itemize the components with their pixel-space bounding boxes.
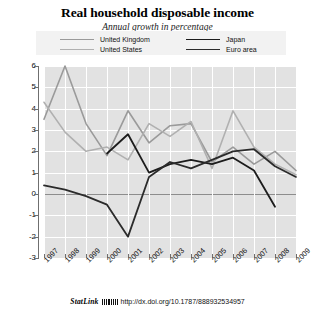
plot-area	[44, 66, 296, 258]
legend-swatch-euro-area	[186, 49, 220, 50]
legend-label-euro-area: Euro area	[226, 46, 257, 53]
page-title: Real household disposable income	[0, 5, 315, 21]
legend-label-united-states: United States	[100, 46, 142, 53]
legend-swatch-united-states	[60, 49, 94, 50]
y-axis-tick	[34, 109, 39, 110]
gridline-vertical	[296, 66, 297, 258]
legend-item-japan: Japan	[186, 34, 245, 44]
y-axis-tick	[34, 130, 39, 131]
series-lines	[44, 66, 296, 258]
y-axis-tick	[34, 258, 39, 259]
doi-link[interactable]: http://dx.doi.org/10.1787/888932534957	[121, 298, 245, 305]
legend-swatch-united-kingdom	[60, 39, 94, 40]
y-axis-tick	[34, 215, 39, 216]
chart-legend: United Kingdom United States Japan Euro …	[36, 31, 286, 55]
y-axis-tick	[34, 151, 39, 152]
legend-label-japan: Japan	[226, 36, 245, 43]
series-line-japan	[107, 134, 275, 207]
statlink-footer: StatLink http://dx.doi.org/10.1787/88893…	[0, 297, 315, 306]
y-axis-tick	[34, 237, 39, 238]
series-line-united-kingdom	[44, 66, 296, 171]
y-axis-tick	[34, 66, 39, 67]
y-axis-tick	[34, 194, 39, 195]
y-axis-labels: 6543210-1-2-3	[18, 66, 36, 258]
legend-item-euro-area: Euro area	[186, 44, 257, 54]
x-axis-labels: 1997199819992000200120022003200420052006…	[44, 258, 296, 294]
statlink-label: StatLink	[70, 297, 98, 306]
legend-item-united-kingdom: United Kingdom	[60, 34, 150, 44]
y-axis-line	[38, 66, 39, 258]
y-axis-tick	[34, 87, 39, 88]
barcode-icon	[102, 299, 118, 305]
chart-page: Real household disposable income Annual …	[0, 0, 315, 318]
legend-label-united-kingdom: United Kingdom	[100, 36, 150, 43]
y-axis-tick	[34, 173, 39, 174]
legend-item-united-states: United States	[60, 44, 142, 54]
legend-swatch-japan	[186, 39, 220, 40]
